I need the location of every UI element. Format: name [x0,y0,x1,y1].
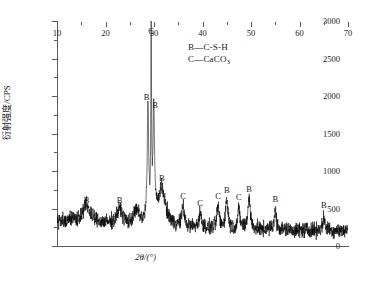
x-axis-title-text: 2θ/(°) [135,252,156,262]
x-axis-line [57,246,349,247]
peak-label-b: B [246,184,252,193]
peak-label-b: B [84,196,90,205]
legend-entry-b: B—C-S-H [188,42,230,54]
peak-label-b: B [224,185,230,194]
legend-c-subscript: 3 [227,58,230,65]
peak-label-b: B [152,100,158,109]
peak-label-c: C [197,199,203,208]
legend-b-name: C-S-H [203,42,228,52]
peak-label-b: B [272,194,278,203]
peak-label-b: B [159,173,165,182]
peak-label-b: B [321,200,327,209]
peak-label-c: C [215,191,221,200]
peak-label-c: C [180,191,186,200]
peak-label-c: C [236,193,242,202]
plot-area: 050010001500200025003000 10203040506070 … [57,21,348,246]
peak-label-c: C [148,26,154,35]
y-tick-major [52,246,57,247]
x-axis-title: 2θ/(°) [0,252,291,262]
legend: B—C-S-H C—CaCO3 [188,42,230,65]
peak-label-b: B [117,196,123,205]
legend-entry-c: C—CaCO3 [188,54,230,66]
xrd-chart-figure: 衍射强度/CPS 050010001500200025003000 102030… [0,0,369,288]
peak-label-b: B [144,93,150,102]
legend-c-name: CaCO [203,54,226,64]
x-tick-major [348,22,349,27]
y-axis-title: 衍射强度/CPS [2,0,13,225]
